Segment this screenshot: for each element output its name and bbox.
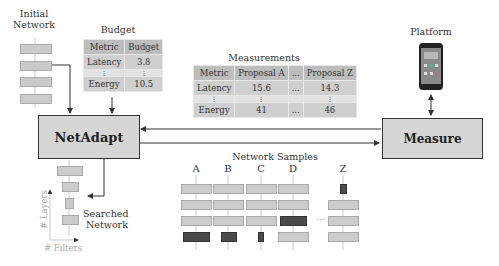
budget-row-ellipsis: ⋮ ⋮: [84, 70, 163, 77]
cell: ⋮: [84, 70, 125, 77]
initial-layer-3: [20, 77, 52, 87]
searched-layer-1: [57, 166, 83, 176]
sample-a-layer-4: [183, 232, 210, 242]
measurements-row-ellipsis: ⋮ ⋮ ⋮: [194, 96, 357, 103]
cell: ⋮: [194, 96, 235, 103]
sample-z-layer-2: [328, 200, 359, 210]
sample-c-layer-4: [258, 232, 264, 242]
netadapt-label: NetAdapt: [55, 130, 124, 145]
budget-row-energy: Energy 10.5: [84, 77, 163, 92]
network-samples-label: Network Samples: [220, 151, 330, 162]
cell: Latency: [84, 55, 125, 70]
cell: 15.6: [235, 81, 288, 96]
cell: Energy: [194, 103, 235, 118]
sample-label-c: C: [251, 163, 271, 174]
header-cell: ...: [288, 66, 303, 81]
cell: Energy: [84, 77, 125, 92]
sample-z-layer-3: [328, 216, 359, 226]
sample-d-layer-2: [278, 200, 309, 210]
sample-c-layer-3: [246, 216, 277, 226]
measurements-table: Metric Proposal A ... Proposal Z Latency…: [193, 65, 357, 118]
initial-layer-4: [20, 94, 52, 104]
sample-label-z: Z: [333, 163, 353, 174]
searched-layer-2: [62, 182, 79, 192]
header-cell: Proposal Z: [303, 66, 356, 81]
measure-label: Measure: [403, 132, 461, 146]
sample-b-layer-1: [213, 184, 244, 194]
measurements-row-latency: Latency 15.6 ... 14.3: [194, 81, 357, 96]
cell: 41: [235, 103, 288, 118]
measurements-row-energy: Energy 41 ... 46: [194, 103, 357, 118]
smartphone-icon: [419, 43, 443, 90]
sample-b-layer-2: [213, 200, 244, 210]
cell: ⋮: [235, 96, 288, 103]
measurements-label: Measurements: [193, 52, 335, 63]
axis-filters-label: # Filters: [38, 243, 88, 254]
netadapt-box: NetAdapt: [38, 115, 140, 159]
header-cell: Metric: [84, 40, 125, 55]
sample-label-b: B: [218, 163, 238, 174]
cell: ...: [288, 81, 303, 96]
searched-network-label-line2: Network: [83, 219, 133, 230]
sample-a-layer-1: [181, 184, 212, 194]
cell: ⋮: [303, 96, 356, 103]
sample-label-a: A: [186, 163, 206, 174]
header-cell: Metric: [194, 66, 235, 81]
searched-network-label: Searched Network: [83, 208, 133, 230]
header-cell: Proposal A: [235, 66, 288, 81]
sample-c-layer-2: [246, 200, 277, 210]
sample-z-layer-4: [328, 232, 359, 242]
header-cell: Budget: [125, 40, 163, 55]
sample-label-d: D: [283, 163, 303, 174]
cell: 46: [303, 103, 356, 118]
budget-label: Budget: [83, 24, 153, 35]
cell: 10.5: [125, 77, 163, 92]
cell: Latency: [194, 81, 235, 96]
sample-a-layer-3: [181, 216, 212, 226]
searched-network-label-line1: Searched: [83, 208, 133, 219]
measure-box: Measure: [382, 118, 483, 159]
sample-c-layer-1: [246, 184, 277, 194]
initial-layer-1: [20, 44, 52, 54]
sample-b-layer-4: [221, 232, 237, 242]
sample-z-layer-1: [340, 184, 347, 194]
cell: [288, 96, 303, 103]
cell: ⋮: [125, 70, 163, 77]
initial-network-label-line2: Network: [2, 19, 66, 30]
sample-a-layer-2: [181, 200, 212, 210]
cell: 14.3: [303, 81, 356, 96]
platform-label: Platform: [400, 26, 462, 37]
initial-network-label-line1: Initial: [2, 8, 66, 19]
cell: 3.8: [125, 55, 163, 70]
budget-table: Metric Budget Latency 3.8 ⋮ ⋮ Energy 10.…: [83, 39, 163, 92]
cell: ...: [288, 103, 303, 118]
searched-layer-4: [62, 215, 79, 225]
initial-network-label: Initial Network: [2, 8, 66, 30]
budget-table-header: Metric Budget: [84, 40, 163, 55]
measurements-table-header: Metric Proposal A ... Proposal Z: [194, 66, 357, 81]
budget-row-latency: Latency 3.8: [84, 55, 163, 70]
sample-d-layer-3: [280, 216, 307, 226]
sample-b-layer-3: [213, 216, 244, 226]
searched-layer-3: [65, 198, 74, 209]
initial-layer-2: [20, 61, 52, 71]
sample-d-layer-4: [278, 232, 309, 242]
axis-layers-label: # Layers: [39, 180, 50, 240]
sample-d-layer-1: [278, 184, 309, 194]
